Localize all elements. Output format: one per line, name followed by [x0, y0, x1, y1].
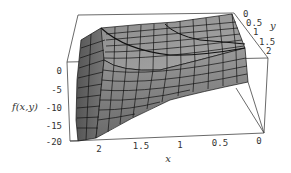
y-tick-4: 2: [266, 46, 271, 56]
z-tick-2: -10: [46, 103, 62, 113]
x-tick-0: 2: [96, 144, 101, 154]
z-tick-0: 0: [57, 66, 62, 76]
x-tick-3: 0.5: [212, 138, 228, 148]
z-tick-1: -5: [51, 85, 62, 95]
y-tick-2: 1: [253, 27, 258, 37]
x-tick-4: 0: [256, 136, 261, 146]
z-tick-3: -15: [46, 121, 62, 131]
z-axis-label: f(x,y): [11, 101, 38, 112]
y-axis-label: y: [269, 20, 276, 31]
x-axis-label: x: [165, 153, 171, 164]
y-axis: 0 0.5 1 1.5 2 y: [243, 9, 276, 56]
x-tick-2: 1: [177, 140, 182, 150]
surface-plot: 0 -5 -10 -15 -20 f(x,y) 2 1.5 1 0.5 0 x …: [0, 0, 291, 173]
z-axis: 0 -5 -10 -15 -20 f(x,y): [11, 66, 62, 147]
x-tick-1: 1.5: [133, 141, 149, 151]
z-tick-4: -20: [46, 137, 62, 147]
x-axis: 2 1.5 1 0.5 0 x: [96, 136, 261, 164]
